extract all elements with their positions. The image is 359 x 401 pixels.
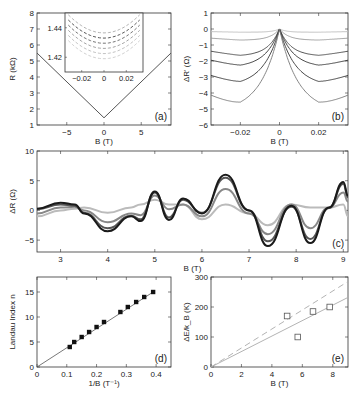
- y-tick-label: 0: [30, 206, 35, 215]
- data-point: [142, 295, 146, 299]
- series-T3: [211, 29, 348, 55]
- y-tick-label: 4: [30, 73, 35, 82]
- y-tick-label: 1: [30, 121, 35, 130]
- y-tick-label: 0: [30, 363, 35, 372]
- x-tick-label: 0.02: [311, 128, 327, 137]
- x-tick-label: 6: [200, 255, 205, 264]
- data-point: [151, 290, 155, 294]
- figure: −50512345678B (T)R (kΩ)(a)−0.0200.021.42…: [0, 0, 359, 401]
- data-point: [284, 313, 290, 319]
- x-tick-label: 0.3: [121, 370, 133, 379]
- y-tick-label: −5: [199, 105, 209, 114]
- y-tick-label: 10: [25, 313, 34, 322]
- inset-x-tick: 0.02: [119, 74, 134, 83]
- x-tick-label: 0.4: [151, 370, 163, 379]
- data-point: [126, 305, 130, 309]
- y-tick-label: −5: [25, 236, 35, 245]
- y-tick-label: 1: [204, 9, 209, 18]
- y-tick-label: 2: [30, 105, 35, 114]
- y-axis-label: Landau Index n: [8, 294, 17, 349]
- y-tick-label: −1: [199, 41, 209, 50]
- y-tick-label: 10: [25, 147, 34, 156]
- panel-label: (e): [332, 353, 344, 364]
- dashed-line: [211, 282, 348, 368]
- x-axis-label: B (T): [95, 137, 113, 146]
- data-point: [118, 310, 122, 314]
- y-tick-label: 7: [30, 25, 35, 34]
- series-T5: [211, 29, 348, 81]
- y-tick-label: 5: [30, 338, 35, 347]
- inset-x-tick: 0: [102, 74, 106, 83]
- panel-e: 024680100200300B (T)ΔE/k_B (K)(e): [182, 273, 348, 388]
- x-tick-label: 5: [139, 128, 144, 137]
- data-point: [310, 309, 316, 315]
- y-axis-label: R (kΩ): [8, 57, 17, 81]
- y-axis-label: ΔR' (Ω): [182, 56, 191, 83]
- panel-c: 34567891050−5B (T)ΔR (Ω)(c): [8, 147, 348, 273]
- y-tick-label: 5: [30, 57, 35, 66]
- x-axis-label: 1/B (T⁻¹): [88, 379, 119, 388]
- x-tick-label: 0: [102, 128, 107, 137]
- y-tick-label: −2: [199, 57, 209, 66]
- y-tick-label: −6: [199, 121, 209, 130]
- data-point: [87, 330, 91, 334]
- x-tick-label: 8: [294, 255, 299, 264]
- x-tick-label: 0: [277, 128, 282, 137]
- x-tick-label: 9: [341, 255, 346, 264]
- y-tick-label: 0: [204, 25, 209, 34]
- x-tick-label: 0.1: [61, 370, 73, 379]
- x-axis-label: B (T): [184, 264, 202, 273]
- inset-y-tick: 1.44: [47, 24, 62, 33]
- y-tick-label: 100: [195, 333, 209, 342]
- x-tick-label: 4: [105, 255, 110, 264]
- inset-y-tick: 1.42: [47, 53, 62, 62]
- data-point: [94, 325, 98, 329]
- y-tick-label: 0: [204, 363, 209, 372]
- panel-label: (c): [332, 238, 344, 249]
- x-tick-label: 0: [35, 370, 40, 379]
- panel-label: (d): [155, 353, 167, 364]
- data-point: [327, 304, 333, 310]
- data-point: [68, 345, 72, 349]
- inset-x-tick: −0.02: [72, 74, 91, 83]
- panel-label: (a): [155, 111, 167, 122]
- x-tick-label: 3: [58, 255, 63, 264]
- y-tick-label: −4: [199, 89, 209, 98]
- x-tick-label: 2: [239, 370, 244, 379]
- x-tick-label: 8: [331, 370, 336, 379]
- x-tick-label: 6: [300, 370, 305, 379]
- x-axis-label: B (T): [271, 379, 289, 388]
- x-tick-label: 0.2: [91, 370, 103, 379]
- series-T6: [211, 29, 348, 102]
- data-point: [295, 334, 301, 340]
- data-point: [134, 300, 138, 304]
- x-axis-label: B (T): [271, 137, 289, 146]
- x-tick-label: 7: [247, 255, 252, 264]
- axes-frame-c: [37, 151, 348, 252]
- data-point: [72, 340, 76, 344]
- y-tick-label: 300: [195, 273, 209, 282]
- y-axis-label: ΔR (Ω): [8, 189, 17, 214]
- y-tick-label: 3: [30, 89, 35, 98]
- y-tick-label: 8: [30, 9, 35, 18]
- data-point: [102, 320, 106, 324]
- x-tick-label: −0.02: [230, 128, 251, 137]
- x-tick-label: −5: [62, 128, 72, 137]
- y-tick-label: 15: [25, 288, 34, 297]
- panel-d: 00.10.20.30.40510151/B (T⁻¹)Landau Index…: [8, 277, 171, 388]
- y-tick-label: 6: [30, 41, 35, 50]
- series-T4: [211, 29, 348, 65]
- x-tick-label: 0: [209, 370, 214, 379]
- panel-label: (b): [332, 111, 344, 122]
- panel-b: −0.0200.0210−1−2−3−4−5−6B (T)ΔR' (Ω)(b): [182, 9, 348, 146]
- axes-frame-e: [211, 277, 348, 367]
- x-tick-label: 4: [270, 370, 275, 379]
- y-axis-label: ΔE/k_B (K): [182, 302, 191, 342]
- x-tick-label: 5: [153, 255, 158, 264]
- data-point: [79, 335, 83, 339]
- panel-a: −50512345678B (T)R (kΩ)(a)−0.0200.021.42…: [8, 9, 171, 146]
- y-tick-label: 5: [30, 177, 35, 186]
- y-tick-label: −3: [199, 73, 209, 82]
- y-tick-label: 200: [195, 303, 209, 312]
